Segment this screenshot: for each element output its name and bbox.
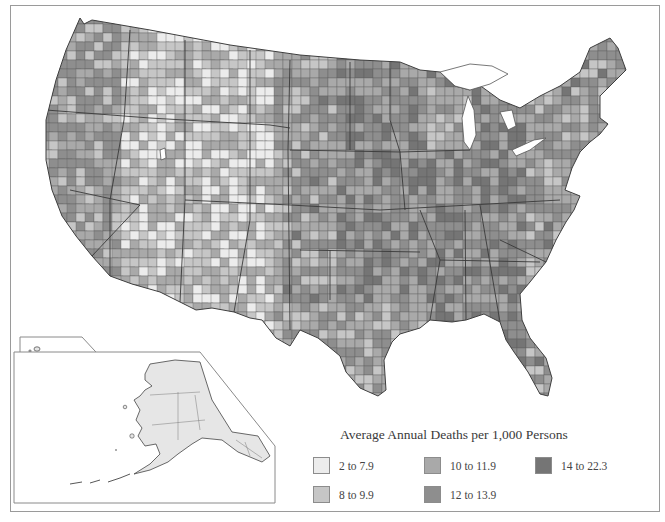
legend-swatch <box>313 457 330 474</box>
legend-label: 8 to 9.9 <box>339 489 374 501</box>
legend-item-2-to-7-9: 2 to 7.9 <box>313 457 374 474</box>
great-salt-lake <box>160 148 166 160</box>
legend-swatch <box>424 486 441 503</box>
legend: Average Annual Deaths per 1,000 Persons … <box>305 420 655 512</box>
legend-title: Average Annual Deaths per 1,000 Persons <box>340 427 568 443</box>
legend-label: 10 to 11.9 <box>450 460 496 472</box>
legend-swatch <box>313 486 330 503</box>
legend-label: 14 to 22.3 <box>561 460 607 472</box>
legend-item-12-to-13-9: 12 to 13.9 <box>424 486 496 503</box>
legend-label: 12 to 13.9 <box>450 489 496 501</box>
legend-label: 2 to 7.9 <box>339 460 374 472</box>
legend-swatch <box>424 457 441 474</box>
legend-item-10-to-11-9: 10 to 11.9 <box>424 457 496 474</box>
county-cells <box>40 15 634 402</box>
legend-item-8-to-9-9: 8 to 9.9 <box>313 486 374 503</box>
legend-item-14-to-22-3: 14 to 22.3 <box>535 457 607 474</box>
legend-swatch <box>535 457 552 474</box>
